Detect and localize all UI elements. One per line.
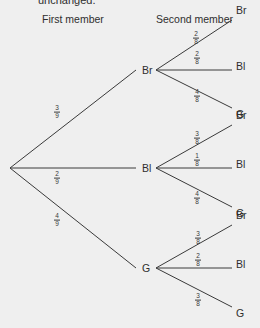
numerator: 2: [195, 51, 199, 58]
first-level-probability: 49: [54, 213, 60, 228]
numerator: 4: [55, 213, 59, 220]
denominator: 9: [55, 179, 59, 186]
numerator: 1: [195, 153, 199, 160]
first-level-node: Bl: [142, 163, 151, 174]
second-level-probability: 28: [194, 51, 200, 66]
second-level-node: Bl: [236, 61, 245, 72]
second-level-probability: 48: [194, 191, 200, 206]
numerator: 2: [196, 253, 200, 260]
numerator: 3: [195, 131, 199, 138]
denominator: 8: [196, 261, 200, 268]
denominator: 9: [55, 221, 59, 228]
first-level-probability: 39: [54, 105, 60, 120]
second-level-node: Bl: [236, 159, 245, 170]
first-level-branch: [10, 168, 136, 268]
numerator: 3: [196, 293, 200, 300]
numerator: 3: [196, 231, 200, 238]
denominator: 8: [195, 139, 199, 146]
second-level-node: Bl: [236, 259, 245, 270]
second-level-probability: 48: [194, 89, 200, 104]
second-level-probability: 28: [195, 253, 201, 268]
denominator: 8: [195, 97, 199, 104]
denominator: 8: [195, 161, 199, 168]
numerator: 2: [55, 171, 59, 178]
denominator: 8: [196, 301, 200, 308]
numerator: 4: [195, 89, 199, 96]
second-level-probability: 28: [193, 31, 199, 46]
denominator: 9: [55, 113, 59, 120]
first-level-probability: 29: [54, 171, 60, 186]
numerator: 3: [55, 105, 59, 112]
second-level-node: Br: [236, 5, 247, 16]
numerator: 2: [194, 31, 198, 38]
second-level-branch: [156, 225, 232, 268]
second-level-probability: 38: [194, 131, 200, 146]
second-level-node: G: [236, 308, 244, 319]
denominator: 8: [196, 239, 200, 246]
first-level-node: Br: [142, 65, 153, 76]
numerator: 4: [195, 191, 199, 198]
first-level-node: G: [142, 263, 150, 274]
first-level-branch: [10, 70, 136, 168]
second-level-probability: 38: [195, 231, 201, 246]
second-level-node: Br: [236, 110, 247, 121]
denominator: 8: [195, 199, 199, 206]
second-level-node: Br: [236, 210, 247, 221]
denominator: 8: [195, 59, 199, 66]
second-level-probability: 38: [195, 293, 201, 308]
probability-tree-lines: [0, 0, 260, 328]
second-level-branch: [156, 268, 232, 307]
denominator: 8: [194, 39, 198, 46]
second-level-probability: 18: [194, 153, 200, 168]
